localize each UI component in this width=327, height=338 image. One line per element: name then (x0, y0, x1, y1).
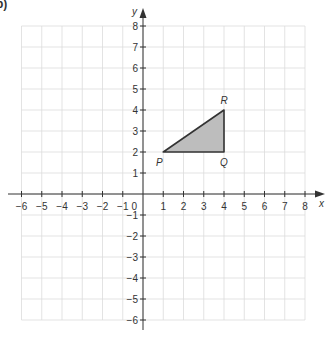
x-tick-label: 7 (282, 201, 288, 212)
y-axis-arrow-icon (140, 8, 147, 18)
y-tick-label: −4 (127, 273, 139, 284)
x-tick-label: −6 (16, 201, 28, 212)
y-tick-label: 2 (132, 147, 138, 158)
x-axis-label: x (318, 198, 325, 209)
x-axis-arrow-icon (315, 191, 325, 198)
x-tick-label: 4 (221, 201, 227, 212)
y-tick-label: −3 (127, 252, 139, 263)
y-tick-label: 8 (132, 21, 138, 32)
y-tick-label: 4 (132, 105, 138, 116)
x-tick-label: −5 (36, 201, 48, 212)
vertex-label-R: R (220, 95, 227, 106)
vertex-label-Q: Q (220, 157, 228, 168)
y-tick-label: 7 (132, 42, 138, 53)
y-tick-label: 1 (132, 168, 138, 179)
y-tick-label: −6 (127, 315, 139, 326)
x-tick-label: 2 (181, 201, 187, 212)
x-tick-label: 1 (160, 201, 166, 212)
y-tick-label: 3 (132, 126, 138, 137)
x-tick-label: 5 (241, 201, 247, 212)
x-tick-label: −3 (77, 201, 89, 212)
y-tick-label: −2 (127, 231, 139, 242)
x-tick-label: 3 (201, 201, 207, 212)
y-tick-label: −5 (127, 294, 139, 305)
y-tick-label: 6 (132, 63, 138, 74)
x-tick-label: −4 (56, 201, 68, 212)
origin-label: 0 (131, 201, 137, 212)
y-axis-label: y (131, 6, 138, 17)
x-tick-label: 6 (262, 201, 268, 212)
y-tick-label: 5 (132, 84, 138, 95)
vertex-label-P: P (156, 157, 163, 168)
x-tick-label: −2 (97, 201, 109, 212)
coordinate-grid: xy−6−5−4−3−2−112345678−6−5−4−3−2−1123456… (0, 0, 327, 338)
x-tick-label: 8 (302, 201, 308, 212)
